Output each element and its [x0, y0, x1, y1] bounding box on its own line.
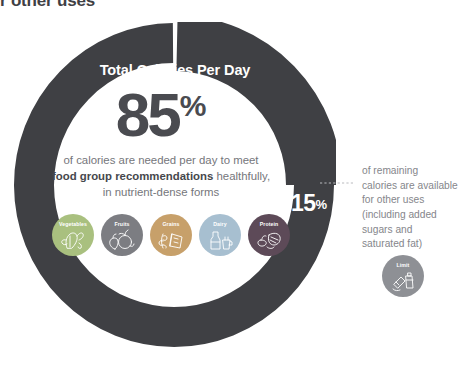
center-description-line-2: food group recommendations healthfully,	[28, 168, 294, 184]
food-group-vegetables[interactable]: Vegetables	[52, 214, 94, 256]
minor-percent-value: 15	[291, 190, 316, 216]
right-description: of remaining calories are available for …	[362, 164, 468, 252]
right-description-line-6: saturated fat)	[362, 237, 468, 252]
food-group-fruits[interactable]: Fruits	[101, 214, 143, 256]
center-content: 85% of calories are needed per day to me…	[28, 88, 294, 200]
grains-icon	[150, 227, 192, 253]
limit-icon	[382, 268, 424, 294]
minor-percent-label: 15%	[291, 192, 327, 215]
major-percent-value: 85	[116, 80, 179, 149]
leader-line	[320, 182, 354, 184]
minor-percent-symbol: %	[316, 197, 328, 212]
dairy-icon	[199, 227, 241, 253]
fruits-icon	[101, 227, 143, 253]
major-percent-label: 85%	[28, 88, 294, 143]
page-heading-clipped: r other uses	[0, 0, 95, 11]
vegetables-icon	[52, 227, 94, 253]
right-description-line-5: sugars and	[362, 223, 468, 238]
center-description: of calories are needed per day to meet f…	[28, 152, 294, 201]
major-percent-symbol: %	[180, 89, 207, 122]
center-description-emphasis: food group recommendations	[52, 170, 213, 182]
center-description-line-2-rest: healthfully,	[213, 170, 270, 182]
food-group-row: Vegetables Fruits Grains	[52, 214, 290, 256]
food-group-grains[interactable]: Grains	[150, 214, 192, 256]
center-description-line-1: of calories are needed per day to meet	[28, 152, 294, 168]
right-description-line-3: for other uses	[362, 193, 468, 208]
donut-title: Total Calories Per Day	[14, 62, 336, 78]
right-description-line-2: calories are available	[362, 179, 468, 194]
food-group-dairy[interactable]: Dairy	[199, 214, 241, 256]
right-description-line-4: (including added	[362, 208, 468, 223]
limit-badge[interactable]: Limit	[382, 255, 424, 297]
protein-icon	[248, 227, 290, 253]
right-description-line-1: of remaining	[362, 164, 468, 179]
center-description-line-3: in nutrient-dense forms	[28, 184, 294, 200]
food-group-protein[interactable]: Protein	[248, 214, 290, 256]
